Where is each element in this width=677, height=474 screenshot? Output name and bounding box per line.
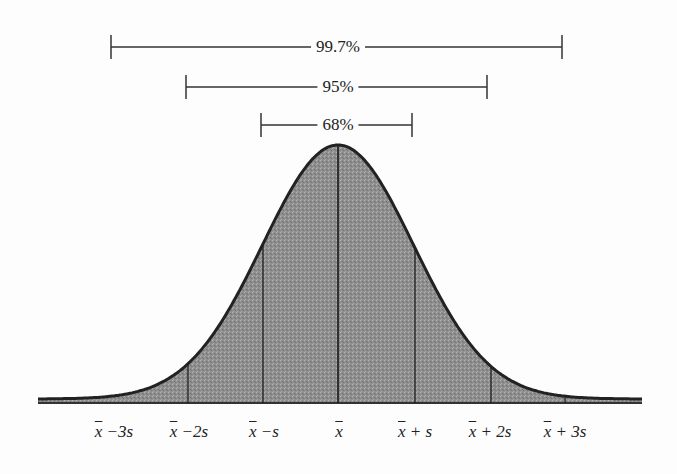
tick-label: x + s <box>398 422 432 442</box>
interval-label-68: 68% <box>317 115 358 135</box>
tick-label: x −2s <box>170 422 208 442</box>
tick-label: x −s <box>249 422 279 442</box>
bell-curve-plot <box>0 0 677 474</box>
shaded-area <box>38 145 642 403</box>
tick-label: x + 3s <box>544 422 587 442</box>
interval-label-99-7: 99.7% <box>311 37 365 57</box>
tick-label: x <box>335 422 343 442</box>
normal-distribution-figure: 99.7% 95% 68% x −3sx −2sx −sxx + sx + 2s… <box>0 0 677 474</box>
tick-label: x + 2s <box>469 422 512 442</box>
tick-label: x −3s <box>95 422 133 442</box>
interval-label-95: 95% <box>317 77 358 97</box>
